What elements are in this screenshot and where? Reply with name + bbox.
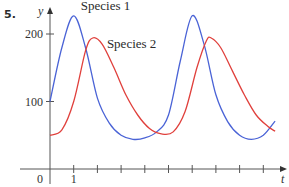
x-ticks: 01 (37, 165, 263, 186)
y-axis-label: y (37, 4, 44, 18)
species-2-curve (50, 37, 275, 135)
x-tick-label: 0 (37, 172, 43, 186)
species-1-label: Species 1 (81, 0, 130, 13)
y-tick-label: 200 (25, 27, 43, 41)
x-tick-label: 1 (71, 172, 77, 186)
y-axis-arrow-icon (47, 7, 53, 14)
problem-number: 5. (4, 8, 16, 21)
species-2-label: Species 2 (107, 36, 156, 51)
series-layer: Species 1Species 2 (50, 0, 275, 139)
y-tick-label: 100 (25, 95, 43, 109)
chart-svg: 5. y t 01 100200 Species 1Species 2 (0, 0, 289, 187)
species-1-curve (50, 16, 275, 140)
chart-figure: 5. y t 01 100200 Species 1Species 2 (0, 0, 289, 187)
axes: y t 01 100200 (20, 4, 287, 186)
t-axis-label: t (281, 172, 285, 186)
